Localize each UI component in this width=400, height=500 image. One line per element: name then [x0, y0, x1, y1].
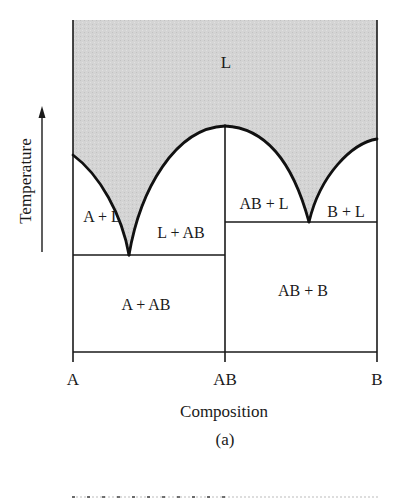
x-tick-b: B — [371, 370, 382, 389]
label-l-plus-ab: L + AB — [157, 224, 205, 241]
label-liquid: L — [221, 53, 231, 72]
label-b-plus-l: B + L — [327, 203, 364, 220]
y-axis-title: Temperature — [16, 138, 35, 224]
label-ab-plus-b: AB + B — [278, 282, 328, 299]
temperature-arrow-icon — [39, 106, 46, 252]
figure-caption: (a) — [216, 430, 235, 449]
x-tick-ab: AB — [213, 370, 237, 389]
x-tick-a: A — [67, 370, 80, 389]
label-ab-plus-l: AB + L — [239, 195, 288, 212]
label-a-plus-ab: A + AB — [121, 296, 170, 313]
x-axis-title: Composition — [180, 402, 268, 421]
phase-diagram: L A + L L + AB AB + L B + L A + AB AB + … — [0, 0, 400, 500]
label-a-plus-l: A + L — [83, 208, 120, 225]
